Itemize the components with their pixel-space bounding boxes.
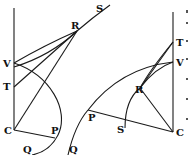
right-line-PC bbox=[88, 110, 173, 132]
left-curve-VR-lower bbox=[14, 31, 77, 67]
label-P: P bbox=[88, 112, 96, 123]
label-V: V bbox=[2, 58, 11, 69]
label-R: R bbox=[71, 20, 80, 31]
right-line-RC bbox=[140, 88, 173, 132]
label-T: T bbox=[176, 37, 184, 48]
left-arc-VPQ bbox=[14, 63, 61, 155]
label-C: C bbox=[176, 127, 184, 138]
label-T: T bbox=[3, 81, 11, 92]
label-V: V bbox=[175, 57, 184, 68]
label-Q: Q bbox=[69, 144, 78, 155]
left-line-CP bbox=[14, 130, 55, 138]
left-line-TR bbox=[14, 31, 77, 87]
right-figure: T V R P S C Q bbox=[68, 12, 184, 155]
label-C: C bbox=[4, 125, 12, 136]
right-curve-QPV bbox=[68, 62, 173, 155]
left-curve-RS bbox=[77, 5, 110, 31]
margin-marks bbox=[186, 10, 188, 120]
right-curve-SR bbox=[125, 42, 173, 128]
label-Q: Q bbox=[23, 144, 32, 155]
label-R: R bbox=[135, 84, 144, 95]
label-P: P bbox=[51, 125, 59, 136]
label-S: S bbox=[96, 3, 103, 14]
label-S: S bbox=[117, 124, 124, 135]
left-figure: S R V T C P Q bbox=[2, 3, 110, 155]
left-curve-VR-upper bbox=[14, 31, 77, 63]
geometric-diagram: S R V T C P Q T V R P S C Q bbox=[0, 0, 189, 155]
